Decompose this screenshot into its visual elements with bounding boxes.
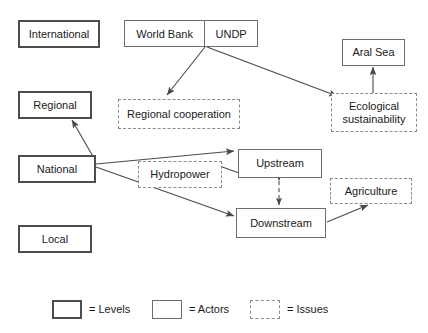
edge-worldbankundp-to-regional-cooperation: [167, 47, 205, 95]
node-agriculture-label: Agriculture: [345, 185, 398, 198]
node-world-bank-undp[interactable]: World Bank UNDP: [124, 20, 258, 47]
node-world-bank[interactable]: World Bank: [125, 21, 205, 46]
node-international-label: International: [29, 28, 90, 41]
governance-diagram: International Regional National Local Wo…: [0, 0, 428, 333]
legend-item-actors: = Actors: [152, 292, 229, 326]
legend-item-issues: = Issues: [250, 292, 328, 326]
node-agriculture[interactable]: Agriculture: [330, 178, 412, 204]
node-international[interactable]: International: [18, 20, 100, 48]
node-regional-cooperation[interactable]: Regional cooperation: [118, 99, 240, 129]
node-regional[interactable]: Regional: [18, 91, 92, 119]
edge-worldbankundp-to-ecological-sustainability: [207, 47, 337, 96]
node-aral-sea[interactable]: Aral Sea: [342, 39, 405, 66]
node-upstream[interactable]: Upstream: [238, 149, 322, 178]
legend-swatch-actors: [152, 300, 182, 319]
node-ecological-sustainability-label: Ecological sustainability: [332, 100, 416, 125]
node-upstream-label: Upstream: [256, 157, 304, 170]
legend-label-issues: = Issues: [287, 303, 328, 315]
node-hydropower[interactable]: Hydropower: [138, 161, 222, 188]
node-national-label: National: [37, 163, 77, 176]
node-hydropower-label: Hydropower: [150, 168, 209, 181]
node-downstream-label: Downstream: [250, 217, 312, 230]
edge-downstream-to-agriculture: [327, 205, 368, 222]
node-regional-cooperation-label: Regional cooperation: [127, 108, 231, 121]
node-local[interactable]: Local: [18, 225, 92, 253]
legend-swatch-levels: [52, 300, 82, 319]
legend-item-levels: = Levels: [52, 292, 130, 326]
node-local-label: Local: [42, 233, 68, 246]
node-world-bank-label: World Bank: [136, 28, 193, 40]
legend: = Levels = Actors = Issues: [0, 292, 428, 326]
node-downstream[interactable]: Downstream: [236, 208, 326, 238]
legend-label-levels: = Levels: [89, 303, 130, 315]
legend-label-actors: = Actors: [189, 303, 229, 315]
node-national[interactable]: National: [18, 155, 96, 183]
legend-swatch-issues: [250, 300, 280, 319]
node-undp-label: UNDP: [216, 28, 247, 40]
node-aral-sea-label: Aral Sea: [352, 46, 394, 59]
node-undp[interactable]: UNDP: [205, 21, 257, 46]
edge-national-to-regional: [72, 120, 95, 160]
node-ecological-sustainability[interactable]: Ecological sustainability: [331, 93, 417, 132]
node-regional-label: Regional: [33, 99, 76, 112]
